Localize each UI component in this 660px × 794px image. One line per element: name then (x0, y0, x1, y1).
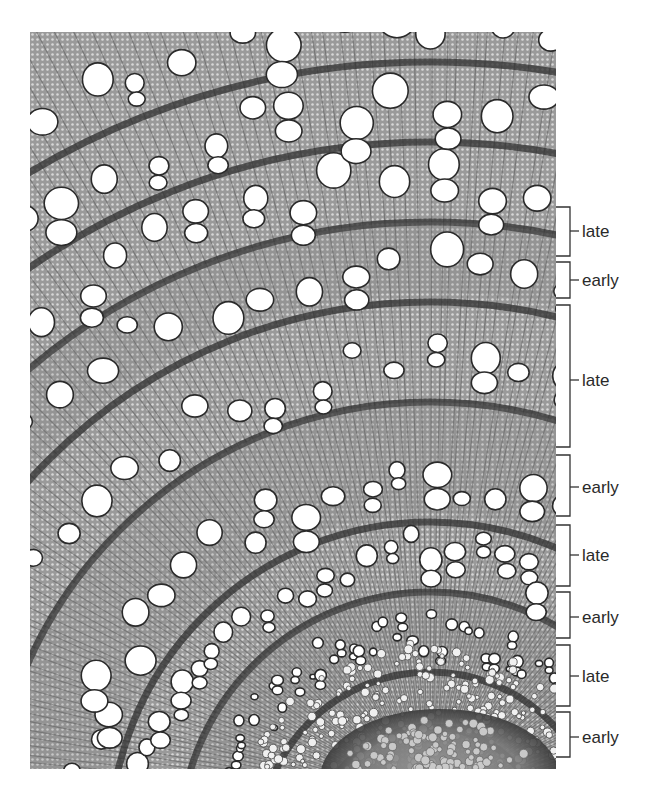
band-label-late: late (582, 222, 609, 241)
band-label-late: late (582, 667, 609, 686)
bracket-line (556, 262, 570, 298)
band-label-late: late (582, 371, 609, 390)
bracket-line (556, 525, 570, 586)
bracket-line (556, 592, 570, 638)
wood-cross-section-figure: lateearlylateearlylateearlylateearly (0, 0, 660, 794)
bracket-line (556, 305, 570, 447)
bracket-early-2: early (556, 262, 619, 298)
bracket-line (556, 455, 570, 516)
bracket-late-3: late (556, 305, 609, 447)
bracket-line (556, 207, 570, 256)
band-label-early: early (582, 728, 619, 747)
band-label-late: late (582, 546, 609, 565)
bracket-line (556, 712, 570, 757)
band-label-early: early (582, 478, 619, 497)
bracket-late-7: late (556, 645, 609, 706)
bracket-line (556, 645, 570, 706)
bracket-early-8: early (556, 712, 619, 757)
band-label-early: early (582, 271, 619, 290)
bracket-late-1: late (556, 207, 609, 256)
bracket-early-4: early (556, 455, 619, 516)
bracket-late-5: late (556, 525, 609, 586)
band-label-early: early (582, 608, 619, 627)
bracket-early-6: early (556, 592, 619, 638)
ring-annotations: lateearlylateearlylateearlylateearly (0, 0, 660, 794)
